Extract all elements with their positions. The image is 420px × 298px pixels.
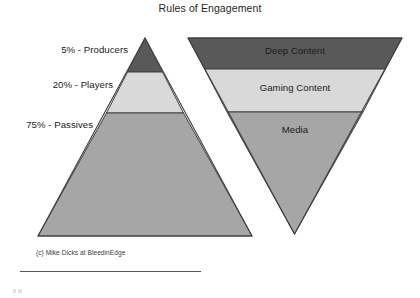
pyramid-label-players: 20% - Players [0,79,113,90]
page-edge-artifact [13,289,22,293]
pyramid-tier-producers [128,38,163,72]
funnel-label-deep-content: Deep Content [188,45,402,56]
funnel-label-media: Media [212,124,378,135]
diagram-canvas: Rules of Engagement 5% - Producers 20% -… [0,0,420,298]
pyramid-label-passives: 75% - Passives [0,119,93,130]
footer-divider [20,271,201,272]
credit-text: (c) Mike Dicks at BleedinEdge [36,249,125,256]
pyramid-tier-players [107,72,184,113]
funnel-label-gaming-content: Gaming Content [188,82,402,93]
pyramid-label-producers: 5% - Producers [0,44,128,55]
